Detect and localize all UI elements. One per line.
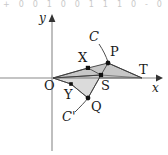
figure-canvas: + 0 0 1 0 0 1 1 1 0 - 0 O X P T [0, 0, 168, 155]
label-curve-C-prime: C' [62, 110, 76, 123]
label-point-T: T [139, 63, 148, 76]
point-dot-Y [69, 82, 73, 86]
arrow-up-icon [49, 14, 56, 22]
leader-Cprime-to-Q-curve [75, 98, 88, 112]
label-point-O: O [44, 79, 55, 92]
point-dot-S [99, 73, 103, 77]
label-point-S: S [101, 79, 110, 92]
point-dot-Q [86, 96, 91, 101]
point-dot-X [86, 66, 90, 70]
label-point-Y: Y [64, 88, 73, 101]
label-point-Q: Q [91, 100, 102, 113]
leader-C-to-P-curve [99, 44, 108, 62]
point-dot-P [106, 61, 111, 66]
label-curve-C: C [89, 30, 99, 43]
label-axis-x: x [152, 82, 159, 94]
label-axis-y: y [39, 12, 46, 24]
label-point-X: X [78, 51, 87, 64]
geometry-diagram [0, 0, 168, 155]
label-point-P: P [110, 45, 119, 58]
